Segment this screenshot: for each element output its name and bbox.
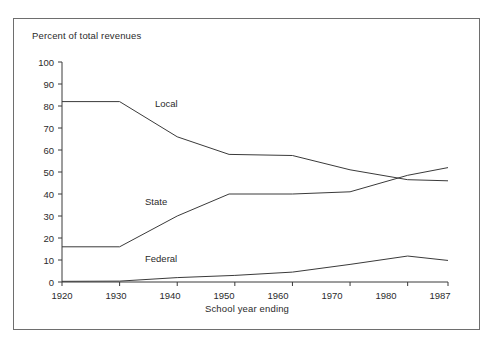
axis-lines [62, 62, 448, 282]
y-axis-ticks [58, 62, 62, 282]
data-line-state [62, 168, 448, 247]
data-line-federal [62, 256, 448, 281]
plot-area [0, 0, 494, 348]
data-line-local [62, 102, 448, 181]
x-axis-ticks [62, 282, 448, 286]
figure-canvas: Percent of total revenues 100 90 80 70 6… [0, 0, 494, 348]
